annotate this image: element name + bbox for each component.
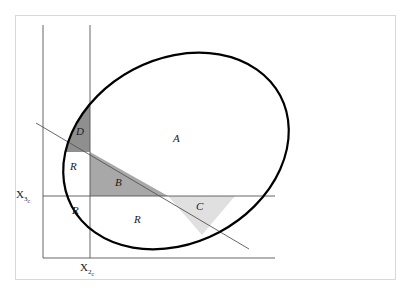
indifference-ellipse — [29, 14, 324, 287]
region-label-a: A — [173, 133, 180, 144]
x-axis-label-subsub: c — [91, 272, 94, 278]
region-label-r-upper: R — [70, 161, 77, 172]
region-label-b: B — [115, 177, 122, 188]
y-axis-label-subsub: c — [27, 199, 30, 205]
region-label-d: D — [76, 126, 84, 137]
region-label-r-lower-right: R — [134, 214, 141, 225]
y-axis-label-base: X — [16, 188, 24, 200]
region-label-c: C — [196, 201, 203, 212]
x-axis-label: X2c — [80, 262, 94, 278]
y-axis-label: X3c — [16, 189, 30, 205]
ellipse-layer — [0, 0, 411, 295]
region-label-r-lower-left: R — [72, 205, 79, 216]
diagram-canvas: A B C D R R R X3c X2c — [0, 0, 411, 295]
x-axis-label-base: X — [80, 261, 88, 273]
